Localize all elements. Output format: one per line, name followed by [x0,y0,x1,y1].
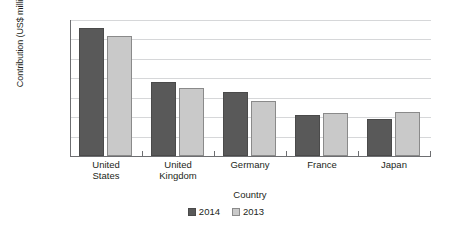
legend-swatch-icon [232,208,240,216]
x-tick-label-line: Japan [358,159,430,170]
bar-2013-japan[interactable] [395,112,420,156]
bar-2014-united-kingdom[interactable] [151,82,176,156]
bar-2014-united-states[interactable] [79,28,104,156]
x-tick-label-line: United [70,159,142,170]
x-tick-label-line: Kingdom [142,170,214,181]
legend-item-2014[interactable]: 2014 [188,207,220,217]
bar-chart-figure: Contribution (US$ millions) 05,00010,000… [0,0,452,232]
bar-group [358,20,430,156]
legend-label: 2013 [243,207,264,217]
legend-label: 2014 [199,207,220,217]
bar-group [142,20,214,156]
x-tick-label: Germany [214,159,286,170]
x-tick-label-line: Germany [214,159,286,170]
chart-legend: 20142013 [0,207,452,217]
bars-layer [70,20,430,156]
x-tick-label-line: States [70,170,142,181]
y-axis-tick-labels: 05,00010,00015,00020,00025,00030,00035,0… [0,0,66,232]
x-tick-label-line: United [142,159,214,170]
bar-2013-france[interactable] [323,113,348,156]
legend-swatch-icon [188,208,196,216]
bar-2013-germany[interactable] [251,101,276,156]
x-tick-label: UnitedStates [70,159,142,181]
bar-2014-france[interactable] [295,115,320,156]
bar-2013-united-kingdom[interactable] [179,88,204,156]
x-axis-tick [430,151,431,156]
bar-group [70,20,142,156]
x-axis-title: Country [70,189,430,200]
bar-group [286,20,358,156]
bar-group [214,20,286,156]
x-tick-label: UnitedKingdom [142,159,214,181]
legend-item-2013[interactable]: 2013 [232,207,264,217]
x-axis-tick-labels: UnitedStatesUnitedKingdomGermanyFranceJa… [70,159,430,187]
x-tick-label: Japan [358,159,430,170]
x-tick-label-line: France [286,159,358,170]
x-tick-label: France [286,159,358,170]
bar-2014-japan[interactable] [367,119,392,156]
bar-2014-germany[interactable] [223,92,248,156]
bar-2013-united-states[interactable] [107,36,132,156]
